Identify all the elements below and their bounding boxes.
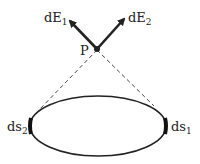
label-ds2: ds2 (7, 119, 28, 136)
ds1-element-mark (165, 118, 166, 134)
dashed-line-ds2 (38, 50, 97, 111)
field-diagram: dE1 dE2 P ds2 ds1 (0, 0, 200, 164)
point-p-dot (94, 46, 100, 52)
label-dE1: dE1 (44, 10, 68, 27)
ds2-element-mark (30, 118, 31, 134)
label-dE2: dE2 (128, 10, 152, 27)
ring-loop (30, 96, 166, 156)
label-point-p: P (80, 43, 89, 58)
dashed-line-ds1 (97, 50, 154, 106)
label-ds1: ds1 (171, 119, 192, 136)
vector-dE2-arrow (97, 19, 124, 49)
